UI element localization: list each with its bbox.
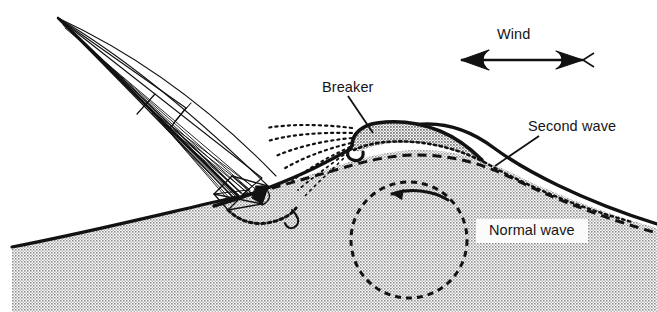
breaker-label: Breaker bbox=[322, 80, 373, 95]
normal-wave-label: Normal wave bbox=[476, 219, 588, 243]
diagram-canvas bbox=[0, 0, 657, 312]
wind-label: Wind bbox=[497, 27, 530, 42]
second-wave-label: Second wave bbox=[528, 119, 616, 134]
wind-arrow-icon bbox=[461, 50, 594, 70]
wave-diagram-figure: Wind Breaker Second wave Normal wave bbox=[0, 0, 657, 312]
sailing-craft bbox=[58, 18, 276, 210]
